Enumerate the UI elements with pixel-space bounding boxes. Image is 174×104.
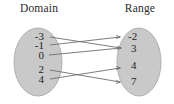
domain-value-2: 0 bbox=[18, 50, 44, 61]
mapping-diagram-figure: Domain Range -3 -1 0 2 4 -2 3 4 7 bbox=[0, 0, 174, 104]
range-value-1: 3 bbox=[131, 43, 157, 54]
mapping-line-2-to-7 bbox=[50, 70, 120, 82]
range-value-0: -2 bbox=[128, 31, 154, 42]
range-value-2: 4 bbox=[131, 60, 157, 71]
range-value-3: 7 bbox=[131, 76, 157, 87]
domain-value-4: 4 bbox=[18, 74, 44, 85]
mapping-line-neg3-to-3 bbox=[50, 37, 121, 48]
